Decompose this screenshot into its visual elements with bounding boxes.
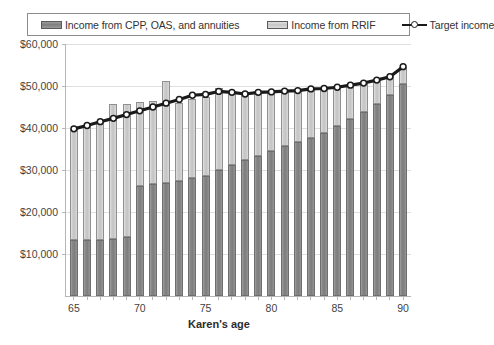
y-axis-label: $50,000: [0, 80, 58, 92]
target-income-marker: [269, 89, 275, 95]
x-axis-label: 85: [331, 302, 343, 314]
x-axis-tick: [139, 296, 140, 300]
x-axis-tick: [389, 296, 390, 300]
x-axis-label: 70: [134, 302, 146, 314]
target-income-marker: [400, 64, 406, 70]
target-income-marker: [176, 97, 182, 103]
target-line-marker-icon: [402, 21, 427, 29]
x-axis-tick: [73, 296, 74, 300]
x-axis-tick: [324, 296, 325, 300]
x-axis-tick: [245, 296, 246, 300]
y-axis-label: $30,000: [0, 164, 58, 176]
target-income-marker: [295, 88, 301, 94]
x-axis-tick: [310, 296, 311, 300]
y-axis-label: $20,000: [0, 206, 58, 218]
legend-item-cpp: Income from CPP, OAS, and annuities: [41, 19, 239, 31]
target-income-marker: [97, 119, 103, 125]
target-income-marker: [348, 82, 354, 88]
target-income-marker: [163, 100, 169, 106]
target-income-marker: [111, 115, 117, 121]
rrif-swatch-icon: [267, 21, 288, 29]
x-axis-tick: [258, 296, 259, 300]
target-income-line: [66, 44, 411, 296]
target-income-marker: [242, 91, 248, 97]
x-axis-title: Karen's age: [0, 318, 438, 330]
target-income-marker: [374, 77, 380, 83]
x-axis-tick: [284, 296, 285, 300]
x-axis-tick: [271, 296, 272, 300]
x-axis-tick: [152, 296, 153, 300]
cpp-swatch-icon: [41, 21, 62, 29]
x-axis-tick: [179, 296, 180, 300]
x-axis-tick: [363, 296, 364, 300]
target-income-polyline: [74, 67, 403, 129]
chart-legend: Income from CPP, OAS, and annuities Inco…: [27, 13, 410, 36]
x-axis-tick: [166, 296, 167, 300]
target-income-marker: [282, 88, 288, 94]
y-axis-label: $40,000: [0, 122, 58, 134]
target-income-marker: [190, 92, 196, 98]
target-income-marker: [203, 92, 209, 98]
y-axis-label: $60,000: [0, 38, 58, 50]
target-income-marker: [229, 89, 235, 95]
target-income-marker: [137, 108, 143, 114]
x-axis-tick: [231, 296, 232, 300]
target-income-marker: [124, 112, 130, 118]
target-income-marker: [71, 126, 77, 132]
target-income-marker: [361, 80, 367, 86]
y-axis-label: $10,000: [0, 248, 58, 260]
plot-area: $10,000$20,000$30,000$40,000$50,000$60,0…: [65, 44, 411, 297]
x-axis-tick: [87, 296, 88, 300]
x-axis-tick: [403, 296, 404, 300]
x-axis-tick: [126, 296, 127, 300]
target-income-marker: [150, 104, 156, 110]
target-income-marker: [387, 74, 393, 80]
legend-label-rrif: Income from RRIF: [291, 19, 375, 31]
x-axis-tick: [113, 296, 114, 300]
target-income-marker: [308, 86, 314, 92]
legend-label-target: Target income: [430, 19, 494, 31]
x-axis-label: 65: [68, 302, 80, 314]
x-axis-tick: [350, 296, 351, 300]
x-axis-label: 75: [200, 302, 212, 314]
x-axis-tick: [100, 296, 101, 300]
x-axis-tick: [192, 296, 193, 300]
x-axis-label: 80: [266, 302, 278, 314]
legend-label-cpp: Income from CPP, OAS, and annuities: [65, 19, 239, 31]
legend-item-target: Target income: [402, 19, 494, 31]
x-axis-tick: [376, 296, 377, 300]
legend-item-rrif: Income from RRIF: [267, 19, 375, 31]
x-axis-tick: [297, 296, 298, 300]
target-income-marker: [216, 89, 222, 95]
x-axis-tick: [218, 296, 219, 300]
target-income-marker: [84, 123, 90, 129]
target-income-marker: [334, 84, 340, 90]
x-axis-label: 90: [397, 302, 409, 314]
target-income-marker: [255, 89, 261, 95]
x-axis-tick: [205, 296, 206, 300]
target-income-marker: [321, 86, 327, 92]
x-axis-tick: [337, 296, 338, 300]
